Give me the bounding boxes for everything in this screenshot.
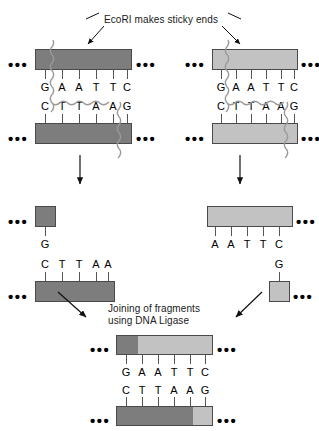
recombinant-upper-strand-bar <box>116 335 213 355</box>
ellipsis-bottom-lower-left: ••• <box>90 416 110 426</box>
tick <box>281 114 282 123</box>
base-letter: T <box>257 239 269 250</box>
base-letter: T <box>56 259 68 270</box>
tick <box>142 397 143 406</box>
tick <box>45 70 46 79</box>
ellipsis-mid-right-upper: ••• <box>296 217 316 227</box>
tick <box>79 70 80 79</box>
base-letter: A <box>152 367 164 378</box>
tick <box>45 114 46 123</box>
base-letter: G <box>121 101 133 112</box>
base-letter: T <box>136 385 148 396</box>
base-letter: A <box>230 82 242 93</box>
base-letter: T <box>241 239 253 250</box>
top-left-lower-strand-bar <box>35 123 132 144</box>
tick <box>221 70 222 79</box>
base-letter: C <box>121 82 133 93</box>
tick <box>266 70 267 79</box>
tick <box>279 227 280 236</box>
mid-left-lower-strand-bar <box>35 281 115 302</box>
tick <box>190 397 191 406</box>
tick <box>294 114 295 123</box>
ligase-caption-line-2: using DNA Ligase <box>108 315 228 327</box>
mid-left-upper-strand-bar <box>35 206 56 227</box>
tick <box>205 397 206 406</box>
tick <box>126 397 127 406</box>
ligase-caption-line-1: Joining of fragments <box>108 303 228 315</box>
ellipsis-right-top-left-lower: ••• <box>136 134 156 144</box>
tick <box>96 114 97 123</box>
base-letter: G <box>120 367 132 378</box>
base-letter: A <box>136 367 148 378</box>
tick <box>127 70 128 79</box>
recombinant-upper-light-segment <box>138 336 213 354</box>
ellipsis-right-top-right-lower: ••• <box>301 134 319 144</box>
ellipsis-right-top-right: ••• <box>301 60 319 70</box>
base-letter: T <box>245 101 257 112</box>
tick <box>263 227 264 236</box>
ellipsis-right-top-left: ••• <box>136 60 156 70</box>
base-letter: C <box>39 259 51 270</box>
base-letter: T <box>56 101 68 112</box>
recombinant-lower-dark-segment <box>117 407 193 425</box>
tick <box>45 272 46 281</box>
tick <box>266 114 267 123</box>
base-letter: T <box>184 367 196 378</box>
base-letter: T <box>275 82 287 93</box>
base-letter: G <box>288 101 300 112</box>
top-right-lower-strand-bar <box>212 123 298 144</box>
base-letter: A <box>168 385 180 396</box>
base-letter: C <box>273 239 285 250</box>
tick <box>174 355 175 364</box>
base-letter: A <box>260 101 272 112</box>
tick <box>236 114 237 123</box>
tick <box>62 114 63 123</box>
tick <box>79 272 80 281</box>
tick <box>247 227 248 236</box>
base-letter: A <box>225 239 237 250</box>
base-letter: C <box>120 385 132 396</box>
tick <box>127 114 128 123</box>
base-letter: T <box>73 259 85 270</box>
base-letter: C <box>288 82 300 93</box>
base-letter: T <box>168 367 180 378</box>
ellipsis-bottom-lower-right: ••• <box>217 416 237 426</box>
tick <box>231 227 232 236</box>
ellipsis-left-top-left-lower: ••• <box>8 134 28 144</box>
tick <box>205 355 206 364</box>
top-left-upper-strand-bar <box>35 49 132 70</box>
ellipsis-left-top-right: ••• <box>185 60 205 70</box>
tick <box>108 272 109 281</box>
top-right-upper-strand-bar <box>212 49 298 70</box>
tick <box>142 355 143 364</box>
ellipsis-mid-left-upper: ••• <box>8 217 28 227</box>
base-letter: A <box>209 239 221 250</box>
tick <box>62 70 63 79</box>
ellipsis-mid-right-lower: ••• <box>293 292 313 302</box>
tick <box>113 114 114 123</box>
base-letter: C <box>215 101 227 112</box>
base-letter: T <box>260 82 272 93</box>
recombinant-upper-dark-segment <box>117 336 138 354</box>
tick <box>281 70 282 79</box>
ellipsis-left-top-right-lower: ••• <box>185 134 205 144</box>
base-letter: A <box>90 259 102 270</box>
base-letter: A <box>56 82 68 93</box>
mid-right-upper-strand-bar <box>207 206 293 227</box>
tick <box>174 397 175 406</box>
tick <box>221 114 222 123</box>
tick <box>251 70 252 79</box>
tick <box>96 70 97 79</box>
ellipsis-bottom-upper-right: ••• <box>217 345 237 355</box>
figure-title: EcoRI makes sticky ends <box>96 14 226 26</box>
ellipsis-left-top-left: ••• <box>8 60 28 70</box>
tick <box>158 397 159 406</box>
base-letter: T <box>107 82 119 93</box>
base-letter: A <box>184 385 196 396</box>
base-letter: A <box>102 259 114 270</box>
tick <box>126 355 127 364</box>
recombinant-lower-strand-bar <box>116 406 213 426</box>
base-letter: C <box>39 101 51 112</box>
tick <box>158 355 159 364</box>
tick <box>113 70 114 79</box>
